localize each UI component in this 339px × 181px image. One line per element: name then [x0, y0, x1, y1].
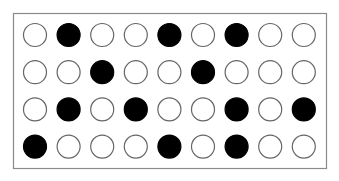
- hollow-circle: [259, 98, 282, 121]
- filled-circle: [57, 98, 80, 121]
- hollow-circle: [124, 61, 147, 84]
- filled-circle: [124, 98, 147, 121]
- filled-circle: [158, 135, 181, 158]
- hollow-circle: [192, 135, 215, 158]
- hollow-circle: [124, 24, 147, 47]
- hollow-circle: [91, 24, 114, 47]
- filled-circle: [57, 24, 80, 47]
- filled-circle: [225, 98, 248, 121]
- hollow-circle: [24, 24, 47, 47]
- hollow-circle: [192, 98, 215, 121]
- hollow-circle: [259, 24, 282, 47]
- filled-circle: [292, 98, 315, 121]
- hollow-circle: [57, 61, 80, 84]
- filled-circle: [24, 135, 47, 158]
- hollow-circle: [124, 135, 147, 158]
- hollow-circle: [57, 135, 80, 158]
- hollow-circle: [292, 61, 315, 84]
- filled-circle: [91, 61, 114, 84]
- hollow-circle: [292, 135, 315, 158]
- hollow-circle: [24, 61, 47, 84]
- hollow-circle: [91, 135, 114, 158]
- circle-grid-canvas: [0, 0, 339, 181]
- hollow-circle: [259, 135, 282, 158]
- hollow-circle: [292, 24, 315, 47]
- filled-circle: [192, 61, 215, 84]
- circle-grid-figure: [0, 0, 339, 181]
- hollow-circle: [91, 98, 114, 121]
- filled-circle: [225, 24, 248, 47]
- hollow-circle: [259, 61, 282, 84]
- hollow-circle: [158, 98, 181, 121]
- filled-circle: [158, 24, 181, 47]
- hollow-circle: [192, 24, 215, 47]
- hollow-circle: [158, 61, 181, 84]
- hollow-circle: [225, 61, 248, 84]
- hollow-circle: [24, 98, 47, 121]
- filled-circle: [225, 135, 248, 158]
